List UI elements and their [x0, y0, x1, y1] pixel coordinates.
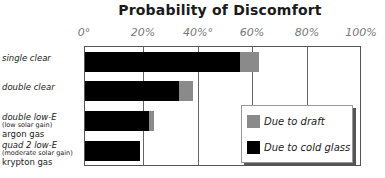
category-label-quad-low-e: quad 2 low-E (moderate solar gain) krypt… [2, 140, 73, 167]
x-tick-60: 60% [240, 26, 264, 39]
category-main: double clear [2, 82, 55, 92]
legend-swatch-cold-glass [247, 141, 260, 154]
bar-segment-draft [149, 111, 155, 131]
x-tick-100: 100% [345, 26, 376, 39]
bar-segment-cold-glass [85, 81, 179, 101]
category-label-single-clear: single clear [2, 53, 51, 63]
bar-single-clear [85, 52, 259, 72]
category-main: single clear [2, 53, 51, 63]
category-sub: (moderate solar gain) [2, 150, 73, 157]
x-tick-20: 20% [131, 26, 155, 39]
bar-double-low-e [85, 111, 154, 131]
legend-swatch-draft [247, 115, 260, 128]
bar-quad-low-e [85, 141, 140, 161]
bar-segment-cold-glass [85, 111, 149, 131]
legend-label-cold-glass: Due to cold glass [264, 142, 350, 153]
x-tick-40: 40%° [183, 26, 213, 39]
legend-label-draft: Due to draft [264, 116, 325, 127]
chart-title: Probability of Discomfort [0, 2, 385, 18]
bar-segment-cold-glass [85, 52, 240, 72]
x-tick-80: 80% [295, 26, 319, 39]
category-sub: (low solar gain) [2, 122, 57, 129]
category-label-double-clear: double clear [2, 82, 55, 92]
category-label-double-low-e: double low-E (low solar gain) argon gas [2, 112, 57, 139]
legend-item-draft: Due to draft [247, 115, 325, 128]
bar-double-clear [85, 81, 193, 101]
category-extra: krypton gas [2, 157, 73, 167]
category-extra: argon gas [2, 129, 57, 139]
legend-item-cold-glass: Due to cold glass [247, 141, 350, 154]
bar-segment-cold-glass [85, 141, 140, 161]
legend: Due to draft Due to cold glass [241, 105, 353, 163]
bar-segment-draft [240, 52, 259, 72]
x-tick-0: 0° [78, 26, 91, 39]
bar-segment-draft [179, 81, 193, 101]
